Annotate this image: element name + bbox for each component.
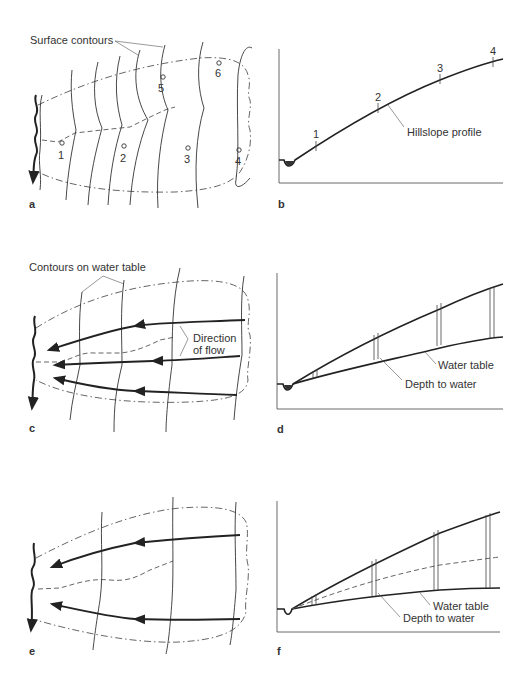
depth-to-water-label: Depth to water <box>405 378 477 390</box>
surface-contour <box>39 95 42 190</box>
land-surface-line <box>277 512 500 614</box>
hillslope-profile-label: Hillslope profile <box>407 126 482 138</box>
direction-of-flow-label-2: of flow <box>193 344 225 356</box>
flow-divide <box>36 337 175 362</box>
panel-letter-b: b <box>278 198 285 210</box>
panel-c-map: Contours on water table Direction of flo… <box>29 261 250 434</box>
svg-text:2: 2 <box>375 91 381 103</box>
surface-contour <box>88 62 102 205</box>
panel-e-map: e <box>29 497 248 657</box>
panel-d-profile: Water table Depth to water d <box>277 273 503 435</box>
hillslope-profile-line <box>279 59 503 166</box>
direction-of-flow-label-1: Direction <box>193 332 236 344</box>
contours-water-table-label: Contours on water table <box>29 261 146 273</box>
svg-text:1: 1 <box>313 128 319 140</box>
direction-leader <box>180 326 188 356</box>
panel-letter-d: d <box>277 423 284 435</box>
svg-text:3: 3 <box>184 153 190 165</box>
surface-contour <box>108 56 122 205</box>
depth-leader <box>378 593 400 617</box>
panel-letter-c: c <box>29 422 35 434</box>
svg-text:3: 3 <box>437 62 443 74</box>
panel-a-map: Surface contours 1 2 3 4 5 6 a <box>29 34 252 210</box>
stream-channel <box>31 543 35 630</box>
figure-canvas: Surface contours 1 2 3 4 5 6 a <box>0 0 531 691</box>
panel-letter-f: f <box>277 645 281 657</box>
water-table-contour <box>114 280 124 432</box>
hillslope-leader <box>388 105 404 127</box>
stream-channel <box>33 95 37 182</box>
panel-letter-a: a <box>29 198 36 210</box>
stream-channel <box>32 316 35 408</box>
svg-text:6: 6 <box>215 67 221 79</box>
surface-contour <box>130 50 148 205</box>
flow-divide <box>42 107 175 142</box>
svg-text:5: 5 <box>158 82 164 94</box>
water-table-contour <box>166 497 173 654</box>
surface-contours-label: Surface contours <box>30 34 114 46</box>
depth-to-water-label: Depth to water <box>403 612 475 624</box>
observation-points: 1 2 3 4 5 6 <box>58 61 241 167</box>
surface-contour <box>66 70 76 200</box>
depth-to-water-wells <box>312 513 490 605</box>
depth-leader <box>380 358 402 380</box>
panel-f-profile: Water table Depth to water f <box>277 501 500 657</box>
water-table-label: Water table <box>433 600 489 612</box>
surface-contour <box>196 42 204 208</box>
panel-b-profile: 1 2 3 4 Hillslope profile b <box>278 45 503 210</box>
panel-letter-e: e <box>29 645 35 657</box>
svg-text:2: 2 <box>120 152 126 164</box>
contours-leader <box>82 276 124 292</box>
svg-text:4: 4 <box>235 155 241 167</box>
water-table-leader <box>420 593 430 605</box>
svg-text:4: 4 <box>490 45 496 57</box>
water-table-contour <box>166 268 180 432</box>
flow-arrows <box>52 535 240 620</box>
svg-text:1: 1 <box>58 149 64 161</box>
water-table-contour <box>230 502 236 645</box>
watershed-boundary <box>36 507 248 642</box>
land-surface-line <box>277 284 503 390</box>
water-table-leader <box>425 352 436 364</box>
water-table-contour <box>234 276 244 420</box>
water-table-label: Water table <box>438 359 494 371</box>
surface-contour <box>157 45 168 208</box>
water-table-contour <box>93 512 102 650</box>
